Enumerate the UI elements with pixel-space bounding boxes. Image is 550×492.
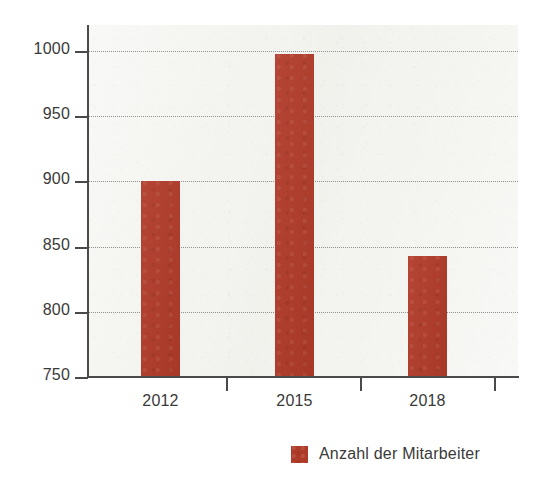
gridline <box>88 51 518 52</box>
y-axis-tick-label: 1000 <box>8 40 70 58</box>
x-axis-tick <box>360 378 362 391</box>
bar-chart-figure: 7508008509009501000 201220152018 Anzahl … <box>0 0 550 492</box>
legend-label: Anzahl der Mitarbeiter <box>319 445 480 463</box>
y-axis-tick <box>75 312 88 314</box>
bar-2012 <box>141 181 180 377</box>
y-axis-tick <box>75 377 88 379</box>
y-axis-tick-label: 800 <box>8 301 70 319</box>
y-axis-tick-label: 750 <box>8 366 70 384</box>
x-axis-tick <box>226 378 228 391</box>
x-axis-tick-label: 2015 <box>250 392 340 410</box>
bar-2015 <box>275 54 314 377</box>
bar-2018 <box>408 256 447 377</box>
legend-color-swatch <box>291 446 308 463</box>
y-axis-tick <box>75 116 88 118</box>
x-axis-tick <box>494 378 496 391</box>
y-axis-tick <box>75 51 88 53</box>
y-axis-tick-label: 850 <box>8 236 70 254</box>
y-axis-line <box>87 25 89 378</box>
chart-legend: Anzahl der Mitarbeiter <box>291 445 480 463</box>
y-axis-tick-label: 900 <box>8 170 70 188</box>
x-axis-tick-label: 2018 <box>383 392 473 410</box>
x-axis-line <box>87 376 519 378</box>
x-axis-tick-label: 2012 <box>116 392 206 410</box>
y-axis-tick-label: 950 <box>8 105 70 123</box>
plot-area <box>88 25 518 377</box>
y-axis-tick <box>75 181 88 183</box>
y-axis-tick <box>75 247 88 249</box>
